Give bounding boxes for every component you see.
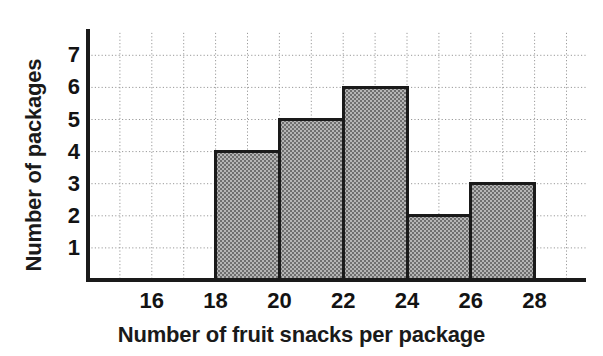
histogram-bar [407,216,471,280]
histogram-bar [279,120,343,281]
plot-area [0,0,603,356]
histogram-bar [471,184,535,280]
histogram-bar [343,87,407,280]
histogram-chart: Number of packages 1 2 3 4 5 6 7 16 18 2… [0,0,603,356]
histogram-bar [216,152,280,280]
bars-group [216,87,535,280]
x-axis-title: Number of fruit snacks per package [0,322,603,348]
